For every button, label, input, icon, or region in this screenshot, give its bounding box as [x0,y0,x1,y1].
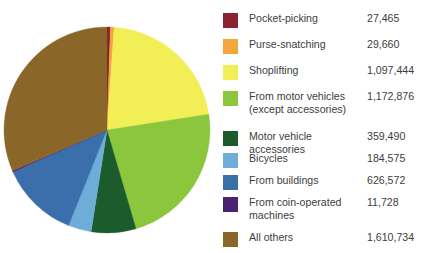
legend-item-label: From coin-operated machines [249,196,367,222]
pie-chart-svg [0,0,216,253]
legend-item-value: 1,172,876 [367,90,427,103]
legend-item-label: Bicycles [249,152,367,165]
legend-item-value: 27,465 [367,12,427,25]
legend-item[interactable]: Bicycles184,575 [223,152,434,168]
legend-color-swatch [223,91,238,106]
legend-item-value: 11,728 [367,196,427,209]
legend-color-swatch [223,39,238,54]
pie-chart-figure: Pocket-picking27,465Purse-snatching29,66… [0,0,434,253]
legend-item-value: 29,660 [367,38,427,51]
legend-item-value: 359,490 [367,130,427,143]
legend-item-value: 184,575 [367,152,427,165]
legend-color-swatch [223,153,238,168]
legend-item[interactable]: From motor vehicles (except accessories)… [223,90,434,116]
legend-item-label: Purse-snatching [249,38,367,51]
legend-item[interactable]: From coin-operated machines11,728 [223,196,434,222]
legend-item-value: 1,610,734 [367,231,427,244]
legend-color-swatch [223,175,238,190]
legend-item[interactable]: Shoplifting1,097,444 [223,64,434,80]
legend-item-label: All others [249,231,367,244]
legend-item-label: From motor vehicles (except accessories) [249,90,367,116]
legend-item[interactable]: Pocket-picking27,465 [223,12,434,28]
legend-color-swatch [223,131,238,146]
legend-item-label: Shoplifting [249,64,367,77]
legend-color-swatch [223,197,238,212]
legend-item-value: 626,572 [367,174,427,187]
legend-color-swatch [223,65,238,80]
pie-chart-area [0,0,216,253]
legend-color-swatch [223,13,238,28]
legend-color-swatch [223,232,238,247]
legend-item[interactable]: Purse-snatching29,660 [223,38,434,54]
legend-item[interactable]: From buildings626,572 [223,174,434,190]
legend-item-label: Pocket-picking [249,12,367,25]
legend-item-label: From buildings [249,174,367,187]
pie-slice[interactable] [107,27,209,130]
chart-legend: Pocket-picking27,465Purse-snatching29,66… [223,5,434,250]
legend-item[interactable]: All others1,610,734 [223,231,434,247]
legend-item-value: 1,097,444 [367,64,427,77]
